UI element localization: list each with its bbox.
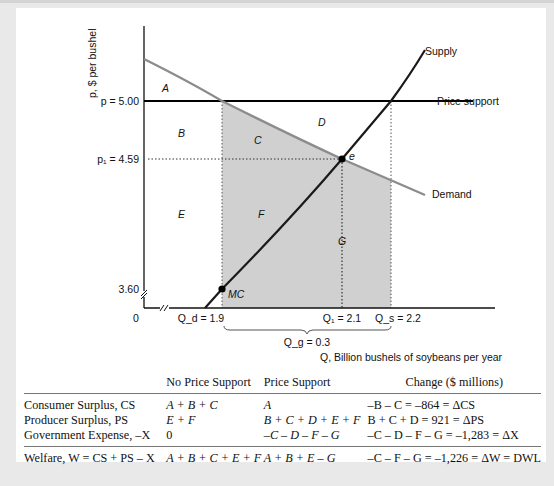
cell-no-support: E + F — [166, 413, 264, 428]
cell-support: A + B + E – G — [264, 447, 368, 467]
bottom-strip — [0, 470, 554, 486]
table-row-welfare: Welfare, W = CS + PS – X A + B + C + E +… — [24, 447, 541, 467]
cell-no-support: A + B + C — [166, 394, 264, 414]
qg-label: Q_g = 0.3 — [284, 336, 331, 348]
origin-label: 0 — [133, 312, 139, 324]
price-support-tick-label: p = 5.00 — [101, 95, 139, 107]
area-g-label: G — [338, 235, 346, 247]
qd-tick-label: Q_d = 1.9 — [178, 312, 225, 324]
mc-label: MC — [228, 288, 245, 300]
cell-no-support: A + B + C + E + F — [166, 447, 264, 467]
table-header-row: No Price Support Price Support Change ($… — [24, 372, 541, 394]
area-a-label: A — [161, 82, 169, 94]
area-b-label: B — [178, 127, 185, 139]
p1-tick-label: p₁ = 4.59 — [97, 153, 139, 165]
cell-change: –C – F – G = –1,226 = ΔW = DWL — [368, 447, 541, 467]
area-d-label: D — [318, 116, 326, 128]
row-label: Producer Surplus, PS — [24, 413, 166, 428]
cell-change: –C – D – F – G = –1,283 = ΔX — [368, 428, 541, 447]
x-axis-label: Q, Billion bushels of soybeans per year — [320, 351, 503, 363]
area-e-label: E — [178, 208, 186, 220]
price-support-label: Price support — [437, 95, 499, 107]
row-label: Welfare, W = CS + PS – X — [24, 447, 166, 467]
supply-label: Supply — [425, 45, 458, 57]
low-price-tick-label: 3.60 — [119, 283, 140, 295]
table-row-producer-surplus: Producer Surplus, PS E + F B + C + D + E… — [24, 413, 541, 428]
qs-tick-label: Q_s = 2.2 — [375, 312, 421, 324]
row-label: Consumer Surplus, CS — [24, 394, 166, 414]
equilibrium-label: e — [349, 150, 355, 162]
x-axis-break-icon — [160, 304, 169, 312]
area-f-label: F — [258, 208, 265, 220]
table-row-consumer-surplus: Consumer Surplus, CS A + B + C A –B – C … — [24, 394, 541, 414]
qg-bracket — [224, 326, 391, 334]
table-header-empty — [24, 372, 166, 394]
area-c-label: C — [254, 134, 262, 146]
cell-support: B + C + D + E + F — [264, 413, 368, 428]
table-header-no-support: No Price Support — [166, 372, 264, 394]
q1-tick-label: Q₁ = 2.1 — [323, 312, 361, 324]
cell-support: –C – D – F – G — [264, 428, 368, 447]
price-support-chart: p, $ per bushel p = 5.00 p₁ = 4.59 3.60 … — [0, 0, 554, 370]
mc-point — [218, 285, 225, 292]
table-row-government-expense: Government Expense, –X 0 –C – D – F – G … — [24, 428, 541, 447]
cell-no-support: 0 — [166, 428, 264, 447]
table-header-support: Price Support — [264, 372, 368, 394]
welfare-table: No Price Support Price Support Change ($… — [24, 372, 541, 466]
equilibrium-point — [338, 155, 345, 162]
demand-label: Demand — [432, 188, 472, 200]
cell-change: –B – C = –864 = ΔCS — [368, 394, 541, 414]
cell-support: A — [264, 394, 368, 414]
cell-change: B + C + D = 921 = ΔPS — [368, 413, 541, 428]
row-label: Government Expense, –X — [24, 428, 166, 447]
y-axis-label: p, $ per bushel — [86, 29, 98, 98]
table-header-change: Change ($ millions) — [368, 372, 541, 394]
